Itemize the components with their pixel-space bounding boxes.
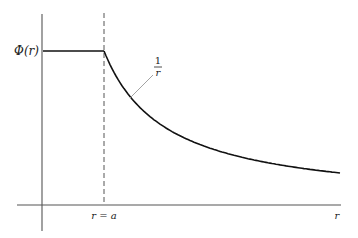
x-axis-label: r — [335, 210, 341, 221]
inverse-r-curve — [104, 51, 340, 173]
boundary-label: r = a — [91, 210, 117, 221]
annotation-denominator: r — [156, 67, 162, 78]
annotation-leader-line — [130, 75, 153, 98]
annotation-numerator: 1 — [155, 55, 161, 66]
y-axis-label: Φ(r) — [14, 44, 39, 58]
potential-diagram: 1 r Φ(r) r = a r — [0, 0, 358, 238]
